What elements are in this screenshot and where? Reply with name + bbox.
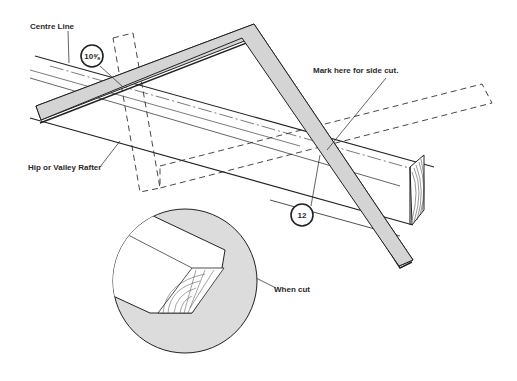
hip-valley-rafter-label: Hip or Valley Rafter	[28, 163, 101, 172]
centre-line-label: Centre Line	[30, 22, 75, 31]
rafter-diagram: 10⅝ 12 Centre Line Hip or Valley Rafter …	[0, 0, 517, 381]
rafter-end-grain	[410, 155, 424, 225]
tongue-callout-text: 10⅝	[84, 52, 101, 61]
dashed-square-tongue	[113, 33, 160, 192]
centre-line-leader	[68, 31, 69, 63]
rafter-leader	[100, 141, 120, 167]
side-cut-label: Mark here for side cut.	[313, 66, 398, 75]
side-cut-leader	[327, 78, 386, 150]
blade-callout-text: 12	[298, 211, 307, 220]
when-cut-label: When cut	[274, 285, 310, 294]
detail-view	[100, 205, 257, 353]
when-cut-leader	[256, 278, 276, 288]
